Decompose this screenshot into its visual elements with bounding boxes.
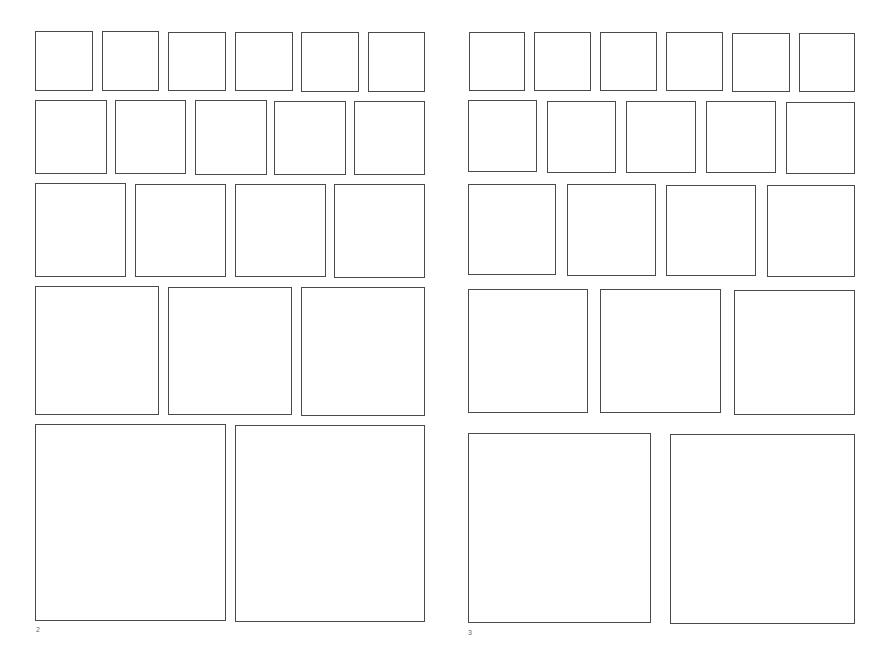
- frame-box: [799, 33, 855, 92]
- frame-box: [786, 102, 855, 174]
- frame-box: [468, 184, 556, 275]
- frame-box: [547, 101, 616, 173]
- frame-box: [706, 101, 776, 173]
- frame-box: [469, 32, 525, 91]
- frame-box: [468, 433, 651, 623]
- frame-box: [600, 32, 657, 91]
- frame-box: [666, 32, 723, 91]
- frame-box: [666, 185, 756, 276]
- page-number: 3: [468, 629, 472, 636]
- frame-box: [534, 32, 591, 91]
- frame-box: [734, 290, 855, 415]
- frame-box: [468, 289, 588, 413]
- frame-box: [732, 33, 790, 92]
- frame-box: [600, 289, 721, 413]
- page-3: 3: [0, 0, 884, 659]
- frame-box: [670, 434, 855, 624]
- frame-box: [767, 185, 855, 277]
- frame-box: [626, 101, 696, 173]
- frame-box: [468, 100, 537, 172]
- frame-box: [567, 184, 656, 276]
